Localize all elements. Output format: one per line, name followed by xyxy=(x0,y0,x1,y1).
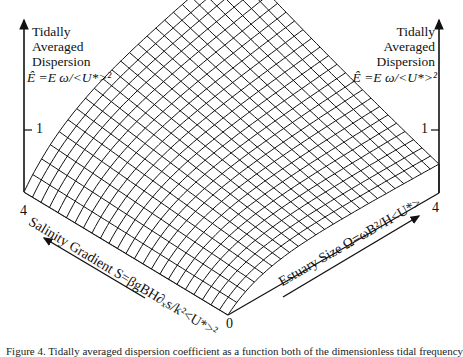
origin-label: 0 xyxy=(226,316,233,332)
left-title-line-3: Dispersion xyxy=(32,54,91,69)
left-axis-formula: Ê =E ω/<U*>² xyxy=(27,70,111,86)
left-title-line-2: Averaged xyxy=(32,39,91,54)
right-tick-label: 1 xyxy=(421,121,428,137)
right-title-line-3: Dispersion xyxy=(377,54,436,69)
salinity-end-label: 4 xyxy=(20,203,27,219)
figure-caption: Figure 4. Tidally averaged dispersion co… xyxy=(6,345,463,357)
right-axis-formula: Ê =E ω/<U*>² xyxy=(353,70,437,86)
right-title-line-2: Averaged xyxy=(377,39,436,54)
right-title-line-1: Tidally xyxy=(377,24,436,39)
left-title-line-1: Tidally xyxy=(32,24,91,39)
estuary-end-label: 4 xyxy=(432,200,439,216)
left-tick-label: 1 xyxy=(36,121,43,137)
left-axis-title: Tidally Averaged Dispersion xyxy=(32,24,91,69)
right-axis-title: Tidally Averaged Dispersion xyxy=(377,24,436,69)
